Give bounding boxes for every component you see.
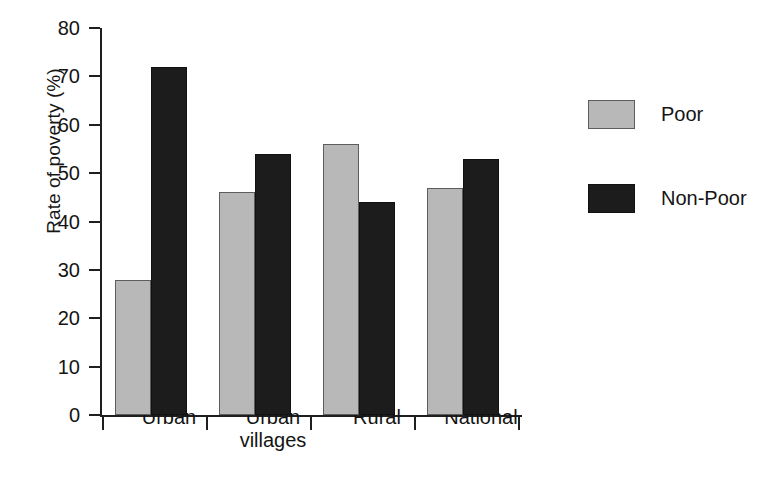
bar-poor-urban <box>115 280 151 415</box>
caption-fragment <box>250 484 550 494</box>
legend-label: Poor <box>661 103 703 126</box>
legend-swatch-poor <box>588 100 635 129</box>
y-axis-tick: 70 <box>89 75 100 77</box>
y-axis-tick-label: 50 <box>58 163 80 183</box>
plot-area: 80706050403020100 <box>100 28 520 415</box>
y-axis-line <box>100 28 102 415</box>
bar-non-poor-rural <box>359 202 395 415</box>
bar-non-poor-urban <box>151 67 187 415</box>
y-axis-tick: 40 <box>89 221 100 223</box>
y-axis-tick: 30 <box>89 269 100 271</box>
y-axis-tick: 50 <box>89 172 100 174</box>
y-axis-tick-label: 10 <box>58 356 80 376</box>
y-axis-tick-label: 70 <box>58 66 80 86</box>
bar-poor-urban-villages <box>219 192 255 415</box>
legend-item-poor[interactable]: Poor <box>588 100 703 129</box>
y-axis-tick: 20 <box>89 317 100 319</box>
y-axis-tick: 60 <box>89 124 100 126</box>
y-axis-tick: 10 <box>89 366 100 368</box>
y-axis-tick-label: 0 <box>69 405 80 425</box>
y-axis-tick-label: 30 <box>58 259 80 279</box>
bar-poor-national <box>427 188 463 415</box>
bar-poor-rural <box>323 144 359 415</box>
y-axis-title: Rate of poverty (%) <box>43 1 65 301</box>
y-axis-tick-label: 20 <box>58 308 80 328</box>
y-axis-tick-label: 60 <box>58 114 80 134</box>
legend-item-non-poor[interactable]: Non-Poor <box>588 184 747 213</box>
y-axis-tick: 80 <box>89 27 100 29</box>
legend-label: Non-Poor <box>661 187 747 210</box>
legend-swatch-nonpoor <box>588 184 635 213</box>
y-axis-tick-label: 40 <box>58 211 80 231</box>
y-axis-tick-label: 80 <box>58 18 80 38</box>
poverty-rate-bar-chart: Rate of poverty (%) 80706050403020100 Ur… <box>0 0 768 494</box>
bar-non-poor-urban-villages <box>255 154 291 415</box>
bar-non-poor-national <box>463 159 499 415</box>
